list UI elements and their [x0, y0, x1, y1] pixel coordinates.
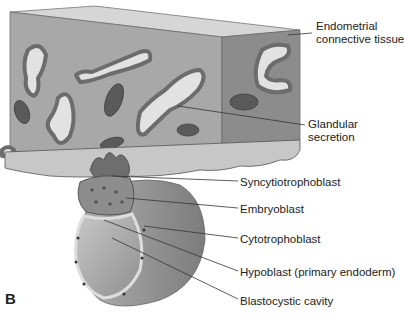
- embryoblast: [78, 176, 134, 215]
- label-embryoblast: Embryoblast: [240, 203, 304, 216]
- blastocystic-cavity: [76, 214, 142, 298]
- panel-letter: B: [5, 290, 16, 307]
- label-cytotrophoblast: Cytotrophoblast: [240, 233, 321, 246]
- label-syncytiotrophoblast: Syncytiotrophoblast: [240, 176, 340, 189]
- label-endometrial-connective-tissue: Endometrial connective tissue: [316, 20, 404, 46]
- label-line: Glandular: [308, 118, 358, 131]
- endometrial-block: [2, 6, 300, 177]
- label-blastocystic-cavity: Blastocystic cavity: [240, 295, 333, 308]
- label-line: secretion: [308, 131, 358, 144]
- label-line: Endometrial: [316, 20, 404, 33]
- label-glandular-secretion: Glandular secretion: [308, 118, 358, 144]
- label-line: connective tissue: [316, 33, 404, 46]
- label-hypoblast: Hypoblast (primary endoderm): [240, 266, 395, 279]
